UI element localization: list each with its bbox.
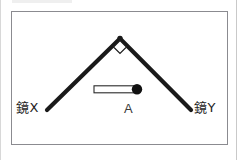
mirror-y-label: 鏡Y — [194, 101, 216, 114]
mirror-x-label: 鏡X — [16, 101, 39, 114]
diagram-canvas — [0, 0, 244, 160]
object-a-label: A — [124, 102, 133, 115]
object-rod-icon — [94, 86, 136, 93]
mirror-y-line — [119, 38, 191, 110]
figure-root: 鏡X A 鏡Y — [0, 0, 244, 160]
object-point-dot-icon — [132, 84, 142, 94]
mirror-x-line — [47, 38, 121, 110]
